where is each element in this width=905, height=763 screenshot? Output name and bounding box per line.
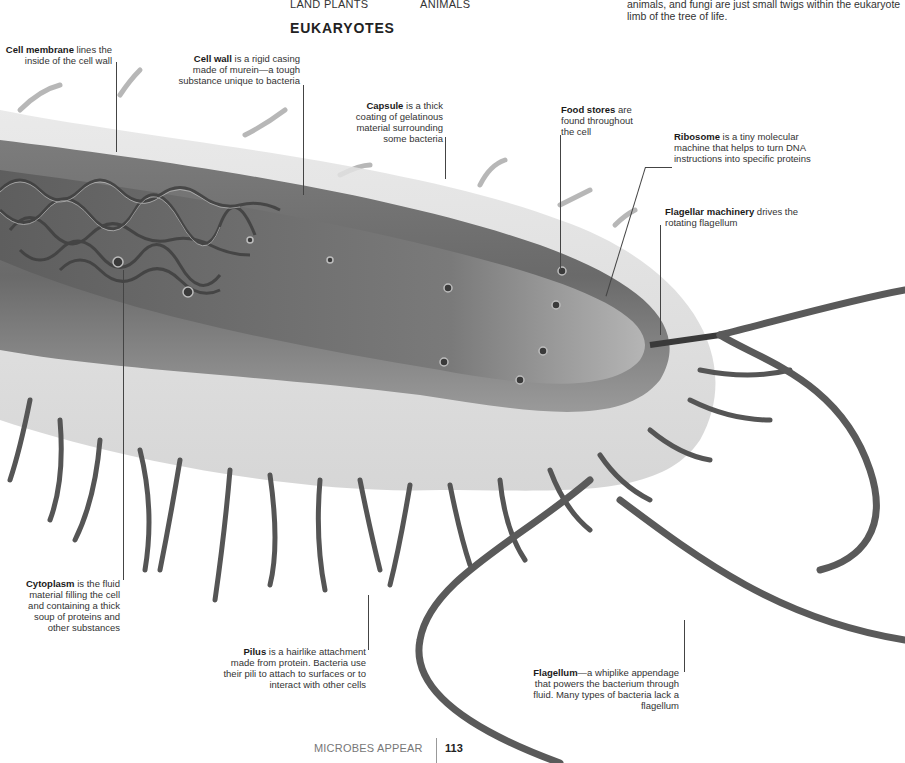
branch-label-animals: ANIMALS <box>420 0 470 10</box>
callout-cell-wall: Cell wall is a rigid casing made of mure… <box>178 53 300 86</box>
term-flagellar-machinery: Flagellar machinery <box>665 206 754 217</box>
running-footer-section: MICROBES APPEAR <box>314 742 423 754</box>
term-cell-membrane: Cell membrane <box>6 44 74 55</box>
page-number: 113 <box>445 742 463 754</box>
term-ribosome: Ribosome <box>674 131 720 142</box>
term-cytoplasm: Cytoplasm <box>26 578 75 589</box>
intro-text: 19), but most branches are also microbes… <box>627 0 905 22</box>
callout-flagellum: Flagellum—a whiplike appendage that powe… <box>527 667 679 711</box>
footer-divider <box>436 738 437 763</box>
leader-ribosome-horizontal <box>645 167 672 168</box>
term-capsule: Capsule <box>366 100 403 111</box>
leader-pilus <box>368 595 369 650</box>
term-cell-wall: Cell wall <box>194 53 232 64</box>
callout-flagellar-machinery: Flagellar machinery drives the rotating … <box>665 206 805 228</box>
leader-flagellum <box>684 620 685 672</box>
bacterium-illustration <box>0 0 905 763</box>
callout-pilus: Pilus is a hairlike attachment made from… <box>218 646 366 690</box>
callout-food-stores: Food stores are found throughout the cel… <box>561 104 641 137</box>
book-page: LAND PLANTS ANIMALS EUKARYOTES 19), but … <box>0 0 905 763</box>
callout-ribosome: Ribosome is a tiny molecular machine tha… <box>674 131 834 164</box>
eukaryotes-heading: EUKARYOTES <box>290 20 395 36</box>
callout-cell-membrane: Cell membrane lines the inside of the ce… <box>0 44 112 66</box>
branch-label-land-plants: LAND PLANTS <box>290 0 369 10</box>
leader-cell-membrane <box>116 62 117 152</box>
leader-cell-wall <box>303 85 304 195</box>
leader-cytoplasm <box>123 270 124 580</box>
term-flagellum: Flagellum <box>533 667 577 678</box>
callout-capsule: Capsule is a thick coating of gelatinous… <box>355 100 443 144</box>
leader-food-stores <box>560 135 561 270</box>
callout-cytoplasm: Cytoplasm is the fluid material filling … <box>22 578 120 633</box>
term-food-stores: Food stores <box>561 104 615 115</box>
leader-capsule <box>445 137 446 179</box>
term-pilus: Pilus <box>244 646 267 657</box>
leader-flagellar-machinery <box>660 225 661 335</box>
